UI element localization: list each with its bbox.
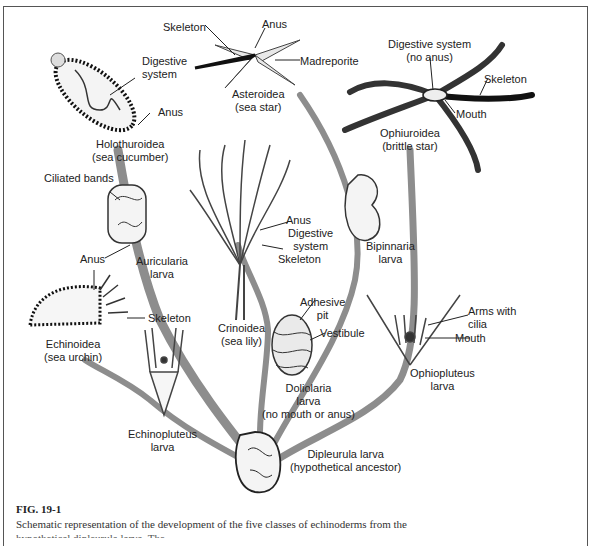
ophiopluteus-label: Ophiopluteuslarva <box>410 367 475 393</box>
dipleurula-label: Dipleurula larva(hypothetical ancestor) <box>290 448 401 474</box>
sea-cucumber-part-anus: Anus <box>158 106 183 119</box>
dipleurula-drawing <box>236 432 280 492</box>
sea-urchin-part-anus: Anus <box>80 253 105 266</box>
doliolaria-label: Doliolarialarva(no mouth or anus) <box>262 382 355 421</box>
figure-caption: Schematic representation of the developm… <box>16 518 407 530</box>
brittle-star-part-skeleton: Skeleton <box>484 73 527 86</box>
bipinnaria-drawing <box>345 175 380 241</box>
sea-lily-part-skeleton: Skeleton <box>278 253 321 266</box>
sea-cucumber-part-digestive: Digestivesystem <box>142 55 187 81</box>
auricularia-label: Auricularialarva <box>136 255 188 281</box>
doliolaria-part-adhesive-pit: Adhesivepit <box>300 296 345 322</box>
figure-caption-truncated: hypothetical dipleurula larva. The ... <box>16 532 436 538</box>
bipinnaria-label: Bipinnarialarva <box>366 240 415 266</box>
doliolaria-drawing <box>272 315 312 375</box>
ophiopluteus-part-arms: Arms withcilia <box>468 305 516 331</box>
doliolaria-part-vestibule: Vestibule <box>320 327 365 340</box>
brittle-star-part-mouth: Mouth <box>456 108 487 121</box>
sea-lily-drawing <box>190 140 290 320</box>
sea-lily-part-digestive: Digestivesystem <box>288 227 333 253</box>
asteroidea-label: Asteroidea(sea star) <box>232 88 285 114</box>
holothuroidea-label: Holothuroidea(sea cucumber) <box>92 138 168 164</box>
figure-number: FIG. 19-1 <box>16 503 61 515</box>
auricularia-part-ciliated-bands: Ciliated bands <box>44 172 114 185</box>
ophiuroidea-label: Ophiuroidea(brittle star) <box>380 127 440 153</box>
sea-cucumber-drawing <box>44 47 146 142</box>
brittle-star-part-digestive: Digestive system(no anus) <box>388 38 471 64</box>
echinopluteus-label: Echinopluteuslarva <box>128 428 197 454</box>
echinoidea-label: Echinoidea(sea urchin) <box>44 338 102 364</box>
sea-lily-part-anus: Anus <box>286 214 311 227</box>
auricularia-drawing <box>108 185 146 243</box>
sea-star-part-skeleton: Skeleton <box>163 21 206 34</box>
sea-urchin-part-skeleton: Skeleton <box>148 312 191 325</box>
sea-star-part-anus: Anus <box>262 18 287 31</box>
sea-star-part-madreporite: Madreporite <box>300 55 359 68</box>
ophiopluteus-part-mouth: Mouth <box>455 332 486 345</box>
sea-star-drawing <box>195 40 300 88</box>
sea-urchin-drawing <box>30 275 128 325</box>
crinoidea-label: Crinoidea(sea lily) <box>218 322 265 348</box>
